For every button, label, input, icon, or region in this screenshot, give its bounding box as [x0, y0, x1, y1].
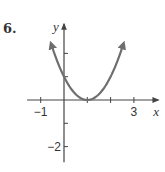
x-tick-label: −1 [34, 105, 48, 119]
parabola-graph: −13−2xy [0, 0, 165, 172]
parabola-curve [51, 44, 123, 100]
y-axis-label: y [51, 19, 59, 34]
x-tick-label: 3 [131, 105, 138, 119]
x-axis-label: x [152, 104, 159, 119]
y-tick-label: −2 [47, 140, 61, 154]
